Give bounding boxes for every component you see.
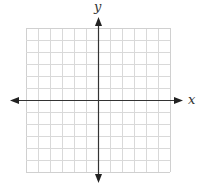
y-axis-label: y [93, 0, 102, 14]
x-axis-left-arrow-icon [10, 97, 19, 104]
y-axis-bottom-arrow-icon [95, 174, 102, 183]
y-axis-top-arrow-icon [95, 17, 102, 26]
coordinate-plane: x y [0, 0, 205, 191]
x-axis-label: x [188, 92, 196, 107]
x-axis-right-arrow-icon [174, 97, 183, 104]
x-axis [10, 97, 183, 104]
